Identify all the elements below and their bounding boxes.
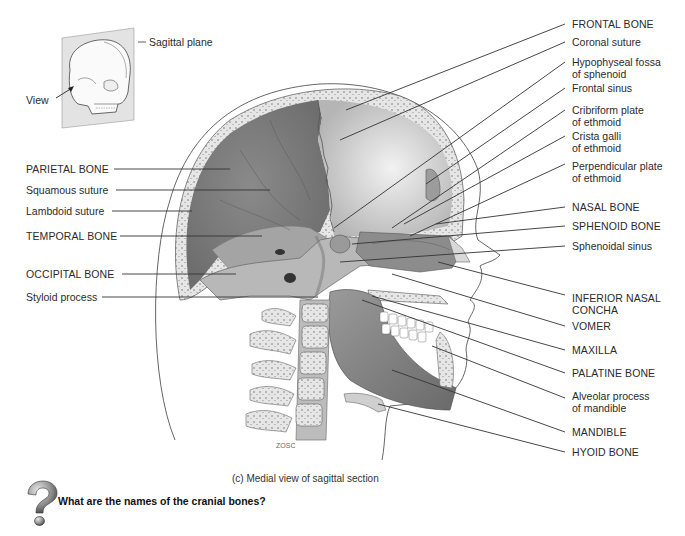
label-vomer: VOMER xyxy=(572,320,611,332)
label-frontal-sinus: Frontal sinus xyxy=(572,82,632,94)
artist-signature: ZOSC xyxy=(276,442,295,449)
label-styloid-process: Styloid process xyxy=(26,291,97,303)
label-parietal-bone: PARIETAL BONE xyxy=(26,163,109,175)
question-mark-icon xyxy=(24,480,58,528)
label-alveolar-process: Alveolar process of mandible xyxy=(572,390,650,414)
label-temporal-bone: TEMPORAL BONE xyxy=(26,230,117,242)
label-hyoid-bone: HYOID BONE xyxy=(572,446,639,458)
label-hypophyseal-fossa: Hypophyseal fossa of sphenoid xyxy=(572,56,661,80)
label-crista-galli: Crista galli of ethmoid xyxy=(572,130,621,154)
label-sphenoidal-sinus: Sphenoidal sinus xyxy=(572,240,652,252)
label-mandible: MANDIBLE xyxy=(572,426,626,438)
label-sphenoid-bone: SPHENOID BONE xyxy=(572,220,661,232)
label-occipital-bone: OCCIPITAL BONE xyxy=(26,268,114,280)
label-palatine-bone: PALATINE BONE xyxy=(572,367,655,379)
figure-caption: (c) Medial view of sagittal section xyxy=(232,473,379,484)
review-question: What are the names of the cranial bones? xyxy=(58,495,266,507)
label-nasal-bone: NASAL BONE xyxy=(572,201,640,213)
label-inferior-nasal-concha: INFERIOR NASAL CONCHA xyxy=(572,292,661,316)
label-coronal-suture: Coronal suture xyxy=(572,36,641,48)
label-squamous-suture: Squamous suture xyxy=(26,184,108,196)
view-label: View xyxy=(26,94,49,106)
label-lambdoid-suture: Lambdoid suture xyxy=(26,205,104,217)
sagittal-plane-label: Sagittal plane xyxy=(149,36,213,48)
label-cribriform-plate: Cribriform plate of ethmoid xyxy=(572,104,644,128)
label-maxilla: MAXILLA xyxy=(572,344,617,356)
cervical-spine xyxy=(246,300,330,440)
inset-skull xyxy=(56,28,146,128)
label-frontal-bone: FRONTAL BONE xyxy=(572,18,654,30)
sagittal-skull-diagram: ZOSC xyxy=(0,0,685,536)
label-perpendicular-plate: Perpendicular plate of ethmoid xyxy=(572,160,662,184)
